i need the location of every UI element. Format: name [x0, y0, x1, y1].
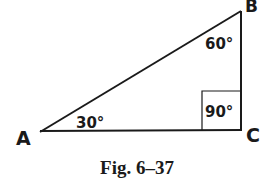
- angle-label-a: 30°: [76, 114, 104, 132]
- vertex-label-c: C: [246, 124, 260, 146]
- side-ac: [40, 130, 241, 131]
- angle-label-c: 90°: [205, 103, 233, 121]
- right-triangle-diagram: A B C 30° 60° 90° Fig. 6–37: [0, 0, 280, 184]
- angle-label-b: 60°: [205, 35, 233, 53]
- figure-caption: Fig. 6–37: [100, 157, 174, 178]
- vertex-label-b: B: [245, 0, 258, 16]
- vertex-label-a: A: [16, 127, 31, 149]
